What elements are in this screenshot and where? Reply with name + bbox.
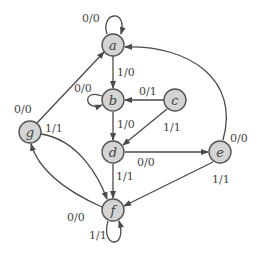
label-d-f: 1/1 [116,170,134,183]
label-e-a: 0/0 [230,132,248,145]
state-a: a [102,34,124,56]
diagram-canvas: 0/0 1/0 0/0 0/1 1/0 1/1 0/0 1/1 0/0 1/1 … [0,0,259,259]
state-g: g [19,121,41,143]
label-c-b: 0/1 [139,85,157,98]
edge-f-f [107,221,121,242]
state-e-label: e [216,145,224,160]
state-b: b [102,89,124,111]
label-a-b: 1/0 [117,66,135,79]
state-d: d [102,141,124,163]
edge-g-f [41,134,107,199]
edge-g-a [37,52,104,123]
state-b-label: b [109,93,117,108]
label-f-f: 1/1 [89,229,107,242]
state-f: f [102,199,124,221]
edge-f-g [31,144,102,207]
label-b-d: 1/0 [117,118,135,131]
label-d-e: 0/0 [137,156,155,169]
edge-a-a [106,16,122,34]
state-c: c [164,89,186,111]
state-diagram: 0/0 1/0 0/0 0/1 1/0 1/1 0/0 1/1 0/0 1/1 … [0,0,259,259]
state-d-label: d [109,145,117,160]
state-e: e [209,141,231,163]
label-g-f: 1/1 [45,122,63,135]
label-a-a: 0/0 [82,12,100,25]
label-g-a: 0/0 [14,103,32,116]
state-a-label: a [109,38,117,53]
state-g-label: g [26,125,34,140]
label-e-f: 1/1 [212,173,230,186]
edge-b-b [88,94,102,106]
state-c-label: c [171,93,179,108]
label-b-b: 0/0 [74,82,92,95]
label-c-d: 1/1 [163,121,181,134]
label-f-g: 0/0 [67,211,85,224]
